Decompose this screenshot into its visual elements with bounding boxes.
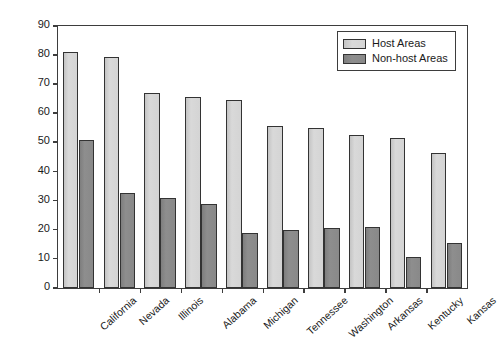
bar [267,126,283,288]
x-axis-category-label: Illinois [176,294,206,322]
bar [283,230,299,288]
y-axis-tick-label: 80 [38,46,50,61]
x-axis-tick-mark [263,288,265,293]
y-axis-tick-label: 50 [38,133,50,148]
x-axis-category-label: Kentucky [425,294,465,332]
y-axis-tick: 20 [17,229,58,230]
legend-swatch-non-host-areas [343,54,366,64]
x-axis-tick-mark [222,288,224,293]
y-axis-tick: 30 [17,200,58,201]
x-axis-category-label: Washington [346,294,395,340]
x-axis-tick-mark [99,288,101,293]
bar-group [58,26,99,288]
y-axis-tick: 80 [17,54,58,55]
y-axis-tick-label: 30 [38,192,50,207]
bar-group [181,26,222,288]
bar [185,97,201,288]
x-axis-tick-mark [303,288,305,293]
bar [201,204,217,288]
chart-legend: Host Areas Non-host Areas [337,31,456,71]
y-axis-tick: 50 [17,141,58,142]
bar [120,193,136,288]
y-axis-tick-label: 0 [44,279,50,294]
x-axis-category-label: Michigan [261,294,300,331]
x-axis-tick-mark [385,288,387,293]
y-axis-tick-label: 60 [38,104,50,119]
bar [447,243,463,288]
bar [365,227,381,288]
x-axis-category-label: Alabama [220,294,259,331]
bar [242,233,258,288]
bar-group [222,26,263,288]
x-axis-category-label: Tennessee [304,294,350,337]
bar-group [140,26,181,288]
bar [431,153,447,288]
bar [308,128,324,288]
bar [406,257,422,288]
x-axis-category-label: Kansas [464,294,498,326]
x-axis-tick-mark [140,288,142,293]
legend-label-host-areas: Host Areas [372,37,426,50]
y-axis-tick: 90 [17,25,58,26]
legend-label-non-host-areas: Non-host Areas [372,52,448,65]
bar-group [99,26,140,288]
y-axis-tick-label: 20 [38,221,50,236]
bar [144,93,160,288]
x-axis-category-label: Nevada [137,294,172,327]
y-axis-tick: 10 [17,258,58,259]
bar [79,140,95,288]
bar-group [263,26,304,288]
bar [349,135,365,288]
x-axis-category-label: California [98,294,139,333]
y-axis-tick-label: 70 [38,75,50,90]
y-axis-tick: 70 [17,83,58,84]
bar [324,228,340,288]
legend-swatch-host-areas [343,39,366,49]
legend-item-nonhost: Non-host Areas [343,51,448,66]
y-axis-tick-label: 10 [38,250,50,265]
x-axis-tick-mark [426,288,428,293]
x-axis-tick-mark [344,288,346,293]
y-axis-tick: 0 [17,287,58,288]
bar [390,138,406,288]
x-axis-tick-mark [181,288,183,293]
bar [226,100,242,288]
bar [104,57,120,288]
y-axis-tick: 60 [17,112,58,113]
legend-item-host: Host Areas [343,36,448,51]
bar [160,198,176,288]
bar [63,52,79,288]
y-axis-tick-label: 40 [38,163,50,178]
y-axis-tick-label: 90 [38,17,50,32]
y-axis-tick: 40 [17,171,58,172]
